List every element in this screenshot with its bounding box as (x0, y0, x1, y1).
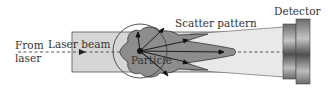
label-laser-beam: Laser beam (48, 38, 110, 50)
detector-back (296, 19, 310, 84)
detector-front (283, 24, 296, 79)
label-from-laser-2: laser (15, 52, 42, 64)
label-from-laser-1: From (15, 39, 44, 51)
label-scatter-pattern: Scatter pattern (175, 17, 257, 29)
particle-scattering-diagram: From laser Laser beam Scatter pattern Pa… (0, 0, 329, 88)
label-particle: Particle (131, 54, 172, 66)
label-detector: Detector (274, 5, 321, 17)
